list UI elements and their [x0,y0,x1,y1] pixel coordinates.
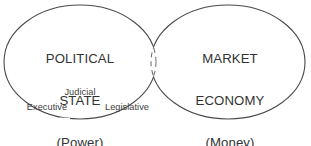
left-circle-overlap-arc [4,5,156,119]
right-bottom-arc-break [186,116,196,118]
venn-diagram: POLITICAL STATE (Power) MARKET ECONOMY (… [0,0,311,146]
left-circle-outline [4,5,156,119]
right-circle-outline [151,5,305,119]
left-bottom-arc-break [60,119,70,120]
right-circle-overlap-arc [151,5,305,119]
venn-shapes [0,0,311,146]
